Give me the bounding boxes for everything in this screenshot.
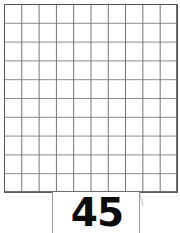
grid-frame-left-edge [4,4,5,193]
grid-frame-right-edge [177,4,178,193]
worksheet-canvas: 45 [0,0,180,233]
square-grid [4,4,177,192]
semicircle-callout: 45 [52,192,140,233]
callout-number-label: 45 [53,192,140,233]
grid-frame-top-edge [4,4,178,5]
